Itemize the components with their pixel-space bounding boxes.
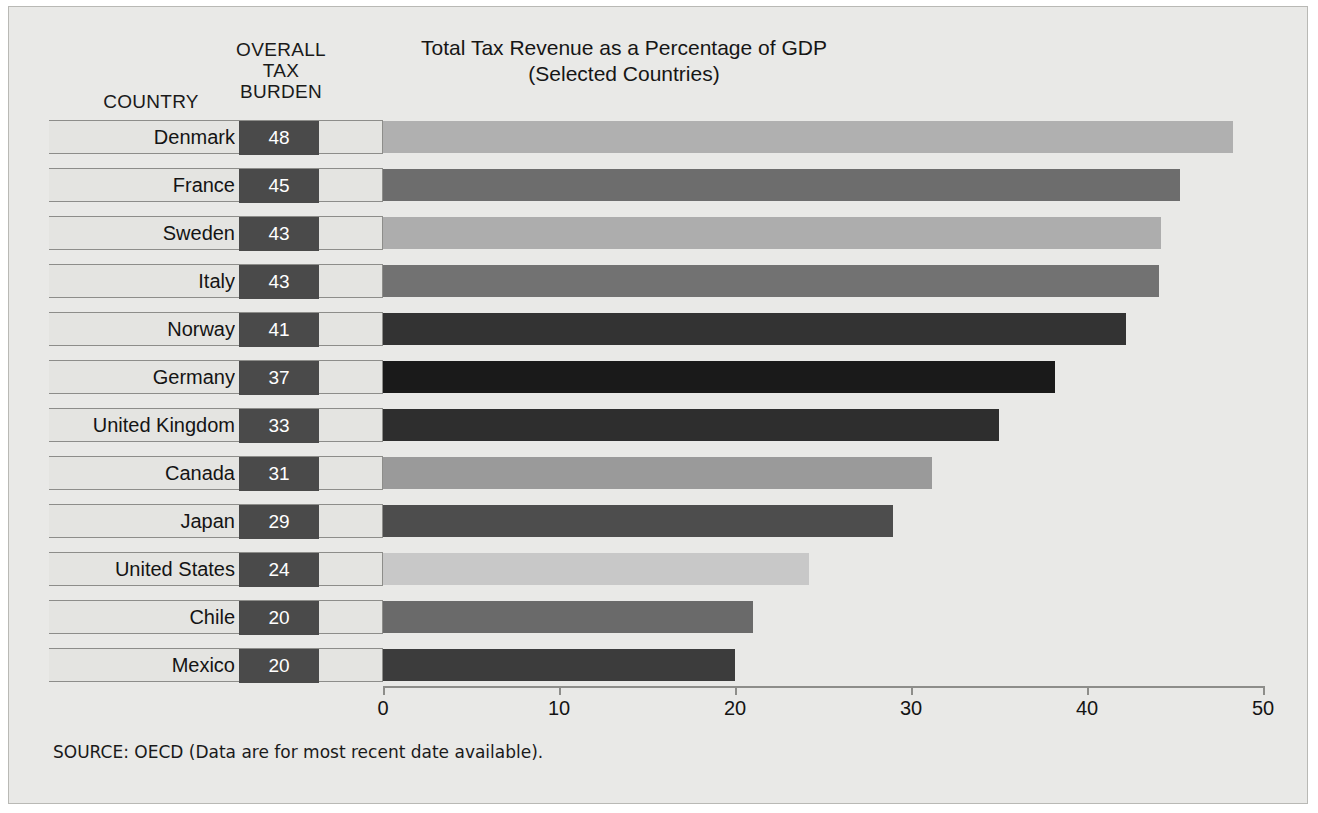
tax-burden-value: 37	[239, 361, 319, 395]
tax-burden-value: 33	[239, 409, 319, 443]
bar	[383, 601, 753, 633]
tax-burden-value: 45	[239, 169, 319, 203]
country-label: Denmark	[59, 121, 235, 155]
bar-rows-container: Denmark48France45Sweden43Italy43Norway41…	[9, 7, 1307, 803]
tax-burden-value: 24	[239, 553, 319, 587]
row-label-box: Sweden43	[49, 216, 383, 250]
tax-burden-value: 48	[239, 121, 319, 155]
x-axis-tick-label: 0	[353, 697, 413, 720]
country-label: Mexico	[59, 649, 235, 683]
chart-row: United Kingdom33	[9, 408, 1307, 442]
bar	[383, 121, 1233, 153]
x-axis-tick-mark	[1087, 686, 1089, 695]
chart-row: United States24	[9, 552, 1307, 586]
bar	[383, 169, 1180, 201]
bar	[383, 313, 1126, 345]
bar	[383, 265, 1159, 297]
bar	[383, 553, 809, 585]
source-note: SOURCE: OECD (Data are for most recent d…	[53, 742, 543, 762]
country-label: Germany	[59, 361, 235, 395]
tax-burden-value: 41	[239, 313, 319, 347]
chart-row: Sweden43	[9, 216, 1307, 250]
x-axis-tick-mark	[911, 686, 913, 695]
chart-row: Mexico20	[9, 648, 1307, 682]
bar	[383, 649, 735, 681]
x-axis-tick-mark	[1263, 686, 1265, 695]
x-axis-tick-mark	[735, 686, 737, 695]
country-label: Japan	[59, 505, 235, 539]
chart-figure: COUNTRY OVERALL TAX BURDEN Total Tax Rev…	[8, 6, 1308, 804]
country-label: United Kingdom	[59, 409, 235, 443]
tax-burden-value: 43	[239, 265, 319, 299]
row-label-box: Japan29	[49, 504, 383, 538]
bar	[383, 409, 999, 441]
x-axis-tick-mark	[559, 686, 561, 695]
row-label-box: Mexico20	[49, 648, 383, 682]
chart-row: Norway41	[9, 312, 1307, 346]
chart-row: Italy43	[9, 264, 1307, 298]
row-label-box: Germany37	[49, 360, 383, 394]
x-axis-tick-label: 40	[1057, 697, 1117, 720]
country-label: Norway	[59, 313, 235, 347]
chart-row: France45	[9, 168, 1307, 202]
chart-row: Germany37	[9, 360, 1307, 394]
country-label: Chile	[59, 601, 235, 635]
bar	[383, 457, 932, 489]
row-label-box: United Kingdom33	[49, 408, 383, 442]
row-label-box: United States24	[49, 552, 383, 586]
row-label-box: Canada31	[49, 456, 383, 490]
chart-row: Japan29	[9, 504, 1307, 538]
x-axis-tick-label: 10	[529, 697, 589, 720]
tax-burden-value: 31	[239, 457, 319, 491]
x-axis-tick-label: 50	[1233, 697, 1293, 720]
row-label-box: Norway41	[49, 312, 383, 346]
country-label: France	[59, 169, 235, 203]
country-label: Italy	[59, 265, 235, 299]
chart-row: Chile20	[9, 600, 1307, 634]
x-axis-tick-label: 20	[705, 697, 765, 720]
tax-burden-value: 43	[239, 217, 319, 251]
country-label: United States	[59, 553, 235, 587]
bar	[383, 361, 1055, 393]
bar	[383, 217, 1161, 249]
row-label-box: Chile20	[49, 600, 383, 634]
country-label: Canada	[59, 457, 235, 491]
tax-burden-value: 20	[239, 649, 319, 683]
tax-burden-value: 29	[239, 505, 319, 539]
bar	[383, 505, 893, 537]
x-axis-tick-mark	[383, 686, 385, 695]
tax-burden-value: 20	[239, 601, 319, 635]
country-label: Sweden	[59, 217, 235, 251]
row-label-box: Denmark48	[49, 120, 383, 154]
chart-row: Canada31	[9, 456, 1307, 490]
chart-row: Denmark48	[9, 120, 1307, 154]
x-axis-line	[383, 686, 1263, 688]
x-axis-tick-label: 30	[881, 697, 941, 720]
row-label-box: France45	[49, 168, 383, 202]
row-label-box: Italy43	[49, 264, 383, 298]
